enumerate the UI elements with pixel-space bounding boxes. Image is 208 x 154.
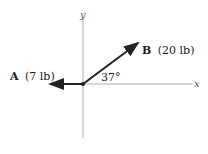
vector-diagram: y x A (7 lb) B (20 lb) 37° — [0, 0, 208, 154]
vector-b-label: B (20 lb) — [142, 44, 194, 57]
vector-a-label: A (7 lb) — [9, 70, 55, 83]
y-axis-label: y — [79, 9, 86, 20]
x-axis-label: x — [194, 78, 200, 89]
origin-point — [81, 82, 85, 86]
angle-label: 37° — [101, 71, 121, 84]
diagram-svg: y x A (7 lb) B (20 lb) 37° — [0, 0, 208, 154]
